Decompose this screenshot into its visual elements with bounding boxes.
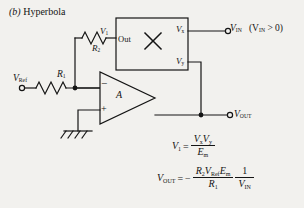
terminal-label-vin: VIN (VIN > 0)	[230, 24, 283, 34]
fraction-vxvy-em: VxVy Em	[191, 133, 215, 159]
equation-v1: V1 = VxVy Em	[172, 133, 215, 159]
multiplier-vy-label: Vy	[176, 57, 184, 67]
figure-caption: (b) Hyperbola	[9, 7, 65, 17]
resistor-label-r2: R2	[92, 44, 100, 54]
wire-noninverting-ground	[78, 110, 100, 131]
resistor-r1	[36, 82, 100, 94]
multiply-icon	[145, 33, 161, 49]
summing-node-dot	[73, 86, 78, 91]
multiplier-out-label: Out	[118, 35, 131, 44]
wire-vy-to-vout	[188, 62, 201, 115]
fraction-r2vrefem-r1: R2VRefEm R1	[193, 165, 234, 191]
terminal-label-vref: VRef	[13, 74, 27, 84]
terminal-label-vout: VOUT	[234, 110, 252, 120]
ground-icon	[61, 131, 92, 138]
opamp-noninverting-sign: +	[101, 104, 107, 114]
multiplier-vx-label: Vx	[176, 25, 184, 35]
vout-node-dot	[199, 113, 204, 118]
resistor-label-r1: R1	[57, 70, 66, 80]
opamp-gain-label: A	[116, 90, 122, 100]
vref-terminal	[19, 85, 24, 90]
caption-title: Hyperbola	[23, 6, 65, 17]
equation-vout: VOUT = − R2VRefEm R1 1 VIN	[157, 165, 254, 191]
vout-terminal	[227, 112, 232, 117]
node-label-v1: V1	[100, 27, 108, 37]
caption-index: (b)	[9, 6, 21, 17]
figure-container: (b) Hyperbola V1 R2 Out Vx Vy VIN (VIN >…	[0, 0, 304, 208]
opamp-inverting-sign: −	[101, 78, 107, 89]
fraction-one-vin: 1 VIN	[235, 165, 253, 190]
opamp-triangle	[100, 72, 155, 124]
